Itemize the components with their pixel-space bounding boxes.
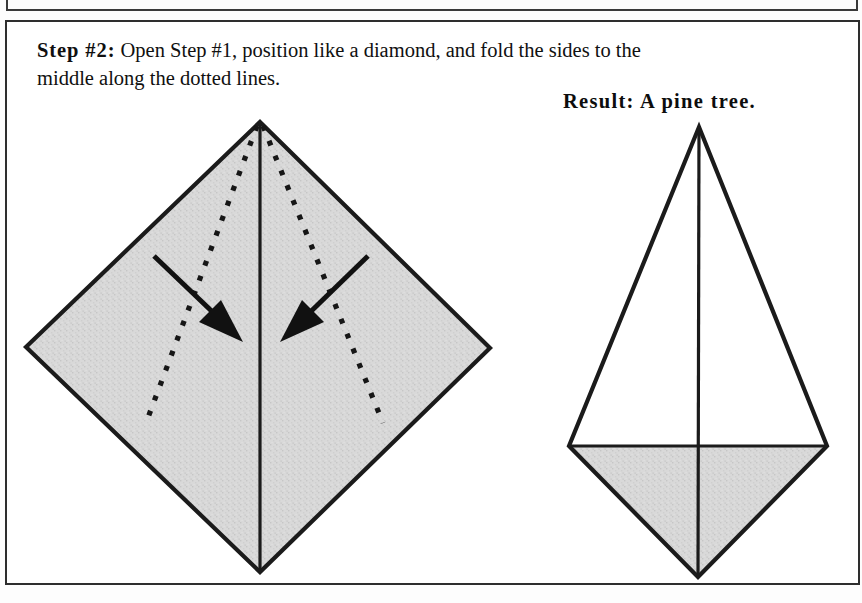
- instruction-page: Step #2: Open Step #1, position like a d…: [0, 0, 862, 603]
- step-label: Step #2:: [37, 39, 115, 61]
- previous-step-box-edge: [6, 0, 858, 11]
- result-label: Result: A pine tree.: [563, 90, 756, 113]
- instruction-text: Step #2: Open Step #1, position like a d…: [37, 36, 657, 92]
- step-panel: Step #2: Open Step #1, position like a d…: [5, 20, 860, 585]
- step-body: Open Step #1, position like a diamond, a…: [37, 39, 641, 89]
